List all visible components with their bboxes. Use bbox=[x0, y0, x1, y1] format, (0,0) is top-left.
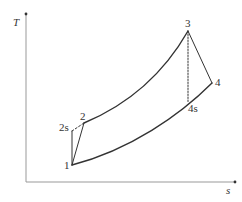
point-4s-label: 4s bbox=[188, 102, 198, 114]
x-axis-arrow-icon bbox=[234, 181, 237, 184]
path-1-2 bbox=[72, 123, 84, 165]
path-2-3 bbox=[84, 31, 188, 123]
point-4-label: 4 bbox=[215, 76, 221, 88]
path-4-1 bbox=[72, 83, 212, 165]
path-3-4 bbox=[188, 31, 212, 83]
point-1-label: 1 bbox=[64, 159, 70, 171]
cycle-paths bbox=[72, 31, 212, 165]
axes bbox=[25, 13, 237, 184]
y-axis-label: T bbox=[13, 16, 20, 28]
y-axis-arrow-icon bbox=[25, 13, 28, 16]
x-axis-label: s bbox=[226, 184, 230, 196]
point-2s-label: 2s bbox=[59, 121, 69, 133]
point-3-label: 3 bbox=[185, 17, 191, 29]
point-2-label: 2 bbox=[80, 110, 86, 122]
ts-diagram: T s 1 2s 2 3 4 4s bbox=[0, 0, 242, 202]
labels: T s 1 2s 2 3 4 4s bbox=[13, 16, 230, 196]
